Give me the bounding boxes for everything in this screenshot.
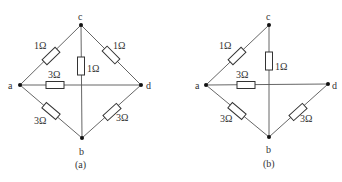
resistor-cb [78, 57, 85, 75]
panel-a: a c b d 1Ω 1Ω 1Ω 3Ω 3Ω 3Ω (a) [8, 11, 151, 171]
label-ab: 3Ω [34, 115, 46, 126]
label-ad: 3Ω [48, 69, 60, 80]
node-a [204, 83, 208, 87]
node-label-d: d [332, 80, 337, 91]
caption-a: (a) [75, 159, 86, 171]
label-ad: 3Ω [236, 69, 248, 80]
label-ac: 1Ω [219, 40, 231, 51]
label-bd: 3Ω [116, 112, 128, 123]
node-b [80, 136, 84, 140]
resistor-ad [46, 82, 64, 89]
node-label-a: a [8, 80, 13, 91]
node-c [267, 23, 271, 27]
label-bd: 3Ω [300, 113, 312, 124]
resistor-ad [237, 82, 255, 89]
label-cb: 1Ω [275, 61, 287, 72]
resistor-cb [266, 52, 273, 70]
node-label-c: c [78, 11, 83, 22]
circuit-figure: a c b d 1Ω 1Ω 1Ω 3Ω 3Ω 3Ω (a) a c b [0, 0, 342, 182]
node-d [326, 82, 330, 86]
label-ab: 3Ω [220, 113, 232, 124]
node-a [18, 83, 22, 87]
label-cd: 1Ω [113, 40, 125, 51]
label-ac: 1Ω [34, 40, 46, 51]
panel-b: a c b d 1Ω 1Ω 3Ω 3Ω 3Ω (b) [195, 11, 337, 170]
node-c [79, 23, 83, 27]
node-label-c: c [266, 11, 271, 22]
node-label-a: a [195, 80, 200, 91]
caption-b: (b) [263, 158, 275, 170]
node-label-b: b [266, 144, 271, 155]
wire-c-b [81, 25, 82, 138]
node-label-b: b [79, 146, 84, 157]
wire-a-d [206, 84, 328, 85]
label-cb: 1Ω [87, 63, 99, 74]
node-d [139, 83, 143, 87]
node-b [267, 135, 271, 139]
node-label-d: d [146, 80, 151, 91]
